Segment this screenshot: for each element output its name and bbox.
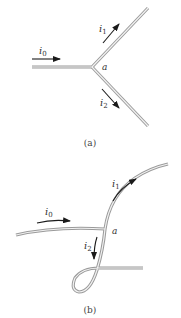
node-label-a: a — [102, 62, 107, 72]
label-i0-a: i0 — [39, 45, 47, 58]
label-i2-a: i2 — [100, 97, 108, 110]
current-i0-arrow-b — [37, 220, 70, 223]
circuit-figure: i0 i1 i2 a (a) i0 — [0, 0, 181, 318]
panel-a: i0 i1 i2 a (a) — [32, 8, 148, 148]
caption-b: (b) — [84, 305, 97, 315]
label-i1-a: i1 — [99, 23, 107, 36]
current-i2-arrow-b — [94, 237, 97, 259]
label-i2-b: i2 — [84, 240, 92, 253]
caption-a: (a) — [84, 138, 96, 148]
wire-junction-b — [16, 164, 168, 292]
label-i1-b: i1 — [112, 178, 120, 191]
node-label-b: a — [112, 226, 117, 236]
panel-b: i0 i1 i2 a (b) — [16, 164, 168, 315]
label-i0-b: i0 — [45, 206, 53, 219]
wire-junction-a — [32, 8, 148, 126]
